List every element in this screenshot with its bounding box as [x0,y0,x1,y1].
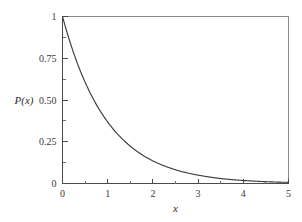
data-curve-0 [63,17,289,183]
x-tick-label-0: 0 [60,188,65,199]
x-tick-label-1: 1 [105,188,110,199]
axis-tick-labels: 01234500.250.500.751 [39,11,291,199]
y-axis-title: P(x) [14,94,34,107]
y-tick-label-0: 0 [52,178,57,189]
x-tick-label-5: 5 [286,188,291,199]
plot-svg: 01234500.250.500.751 xP(x) [0,0,302,222]
x-tick-label-4: 4 [241,188,246,199]
y-tick-label-2: 0.50 [39,95,57,106]
x-axis-title: x [172,202,178,214]
chart-figure: 01234500.250.500.751 xP(x) [0,0,302,222]
y-tick-label-3: 0.75 [39,53,57,64]
plot-frame-top-right [63,17,289,184]
data-curve-group [63,17,289,183]
plot-axes-left-bottom [63,17,289,184]
y-tick-label-4: 1 [52,11,57,22]
plot-frame [63,17,289,184]
x-tick-label-3: 3 [196,188,201,199]
axis-ticks [63,17,289,184]
x-tick-label-2: 2 [150,188,155,199]
y-tick-label-1: 0.25 [39,136,57,147]
